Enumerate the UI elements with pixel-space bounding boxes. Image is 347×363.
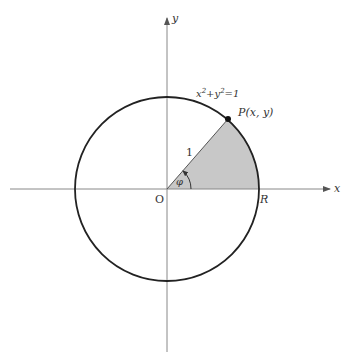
origin-label: O: [155, 193, 164, 206]
y-axis-label: y: [171, 12, 179, 25]
circle-equation: x2+y2=1: [196, 87, 239, 99]
unit-circle-diagram: y x O R 1 φ x2+y2=1 P(x, y): [0, 0, 347, 363]
point-p-label: P(x, y): [237, 106, 273, 119]
x-axis-label: x: [334, 182, 341, 195]
radius-label: 1: [186, 146, 193, 159]
angle-label: φ: [176, 176, 183, 187]
point-p: [225, 116, 231, 122]
end-label-r: R: [259, 193, 268, 206]
svg-text:x2+y2=1: x2+y2=1: [196, 87, 239, 99]
